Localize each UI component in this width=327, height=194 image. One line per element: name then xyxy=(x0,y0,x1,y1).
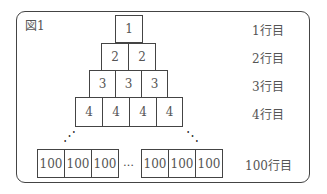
cell-row100: 100 xyxy=(168,149,196,178)
cell-row100: 100 xyxy=(195,149,223,178)
ellipsis: … xyxy=(123,156,134,169)
cell-row3: 3 xyxy=(141,70,168,98)
figure-label: 図1 xyxy=(25,16,45,33)
row-label-1: 1行目 xyxy=(252,21,284,38)
cell-row4: 4 xyxy=(129,97,157,127)
continuation-dots-left: ⋰ xyxy=(63,129,76,142)
cell-row3: 3 xyxy=(89,70,116,98)
row-label-3: 3行目 xyxy=(252,77,284,94)
cell-row100: 100 xyxy=(37,149,65,178)
cell-row100: 100 xyxy=(64,149,92,178)
cell-row2: 2 xyxy=(128,43,156,71)
cell-row4: 4 xyxy=(102,97,130,127)
row-label-100: 100行目 xyxy=(245,156,292,173)
cell-row1: 1 xyxy=(115,15,143,43)
row-label-4: 4行目 xyxy=(252,105,284,122)
cell-row3: 3 xyxy=(115,70,142,98)
cell-row100: 100 xyxy=(141,149,169,178)
cell-row4: 4 xyxy=(75,97,103,127)
row-label-2: 2行目 xyxy=(252,49,284,66)
cell-row100: 100 xyxy=(91,149,119,178)
continuation-dots-right: ⋱ xyxy=(186,129,199,142)
cell-row2: 2 xyxy=(101,43,129,71)
cell-row4: 4 xyxy=(156,97,183,127)
